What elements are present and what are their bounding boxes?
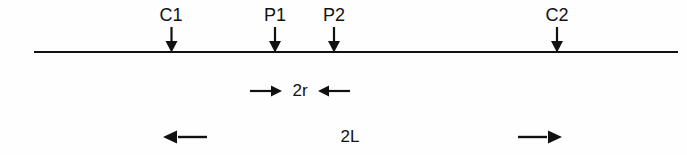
diagram-canvas: C1 P1 P2 C2 2r 2L <box>0 0 687 155</box>
c1-down-arrow <box>166 27 178 53</box>
c2-down-arrow <box>551 27 563 53</box>
marker-label-p2: P2 <box>323 6 345 24</box>
p1-down-arrow <box>269 27 281 53</box>
dimension-label-2l: 2L <box>341 128 360 145</box>
p2-down-arrow <box>328 27 340 53</box>
marker-label-p1: P1 <box>264 6 286 24</box>
marker-label-c1: C1 <box>159 6 182 24</box>
dimension-label-2r: 2r <box>292 82 307 99</box>
two-r-right-arrow <box>318 86 350 97</box>
marker-label-c2: C2 <box>545 6 568 24</box>
two-l-right-arrow <box>518 131 562 144</box>
two-r-left-arrow <box>250 86 282 97</box>
two-l-left-arrow <box>163 131 207 144</box>
